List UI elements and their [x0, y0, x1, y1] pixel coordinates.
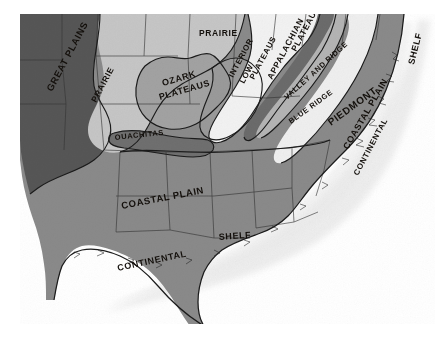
scan-left-margin [0, 0, 20, 338]
physiographic-map: GREAT PLAINS PRAIRIE PRAIRIE OZARK PLATE… [0, 0, 445, 338]
map-figure: GREAT PLAINS PRAIRIE PRAIRIE OZARK PLATE… [0, 0, 445, 338]
print-grain-overlay [20, 14, 435, 324]
scan-top-margin [0, 0, 445, 14]
